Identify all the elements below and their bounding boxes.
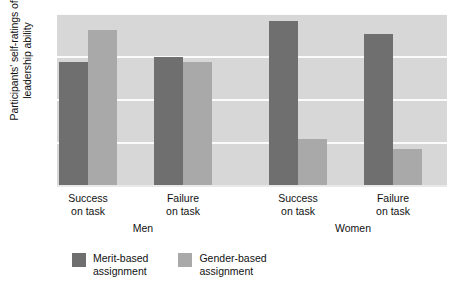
x-tick-label-0: Success on task	[45, 192, 131, 217]
legend-swatch-gender-icon	[178, 253, 192, 267]
x-tick-label-3-line1: Failure	[377, 192, 409, 204]
x-tick-label-2: Success on task	[255, 192, 341, 217]
x-tick-label-2-line2: on task	[255, 205, 341, 218]
legend-label-gender: Gender-based assignment	[199, 252, 266, 277]
x-tick-label-3-line2: on task	[350, 205, 436, 218]
legend-label-gender-line2: assignment	[199, 265, 266, 278]
legend-swatch-merit-icon	[72, 253, 86, 267]
legend-item-gender-based: Gender-based assignment	[178, 252, 266, 277]
y-axis-ticks: 7.06.56.05.55.0	[0, 0, 455, 287]
x-tick-label-3: Failure on task	[350, 192, 436, 217]
bar-chart: Participants' self-ratings of leadership…	[0, 0, 455, 287]
x-tick-label-2-line1: Success	[278, 192, 318, 204]
legend-label-gender-line1: Gender-based	[199, 252, 266, 264]
legend: Merit-based assignment Gender-based assi…	[72, 252, 267, 277]
legend-item-merit-based: Merit-based assignment	[72, 252, 148, 277]
x-tick-label-1: Failure on task	[140, 192, 226, 217]
group-label-women: Women	[293, 222, 413, 234]
x-tick-label-0-line2: on task	[45, 205, 131, 218]
x-tick-label-1-line1: Failure	[167, 192, 199, 204]
x-tick-label-0-line1: Success	[68, 192, 108, 204]
legend-label-merit-line2: assignment	[93, 265, 148, 278]
group-label-men: Men	[83, 222, 203, 234]
legend-label-merit: Merit-based assignment	[93, 252, 148, 277]
legend-label-merit-line1: Merit-based	[93, 252, 148, 264]
x-tick-label-1-line2: on task	[140, 205, 226, 218]
